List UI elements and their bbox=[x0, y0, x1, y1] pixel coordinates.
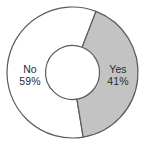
slice-label-yes-value: 41% bbox=[98, 75, 138, 87]
slice-label-yes-name: Yes bbox=[98, 63, 138, 75]
donut-chart: No 59% Yes 41% bbox=[0, 0, 147, 145]
slice-label-yes: Yes 41% bbox=[98, 63, 138, 87]
slice-label-no-name: No bbox=[10, 63, 50, 75]
slice-label-no-value: 59% bbox=[10, 75, 50, 87]
slice-label-no: No 59% bbox=[10, 63, 50, 87]
